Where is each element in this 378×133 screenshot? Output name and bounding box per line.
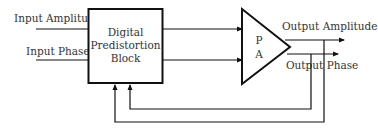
dpd-block-diagram: Input Amplitude Input Phase Digital Pred… <box>0 0 378 133</box>
output-amplitude-signal: Output Amplitude <box>282 20 378 40</box>
dpd-label-line3: Block <box>111 52 141 64</box>
output-amplitude-label: Output Amplitude <box>282 20 378 32</box>
dpd-label-line2: Predistortion <box>91 39 161 51</box>
input-phase-label: Input Phase <box>26 45 90 57</box>
output-phase-label: Output Phase <box>286 59 358 71</box>
pa-label-a: A <box>254 48 263 60</box>
input-phase-signal: Input Phase <box>26 45 90 60</box>
dpd-label-line1: Digital <box>108 26 144 38</box>
digital-predistortion-block: Digital Predistortion Block <box>89 9 163 83</box>
output-phase-signal: Output Phase <box>286 54 358 71</box>
pa-label-p: P <box>255 34 262 46</box>
